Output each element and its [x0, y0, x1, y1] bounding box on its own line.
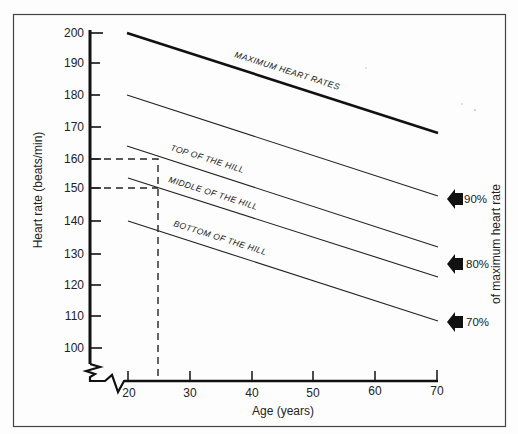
arrow-90: 90%	[447, 189, 487, 209]
arrow-70: 70%	[447, 312, 489, 332]
y-tick-140: 140	[64, 214, 84, 228]
y-axis: 200 190 180 170 160 150 140 130 120 110 …	[31, 26, 103, 364]
y-tick-110: 110	[65, 309, 84, 323]
y-tick-170: 170	[64, 120, 84, 134]
x-tick-30: 30	[183, 386, 197, 400]
x-axis: 20 30 40 50 60 70 Age (years)	[122, 370, 444, 418]
y-tick-200: 200	[64, 26, 84, 40]
y-tick-120: 120	[64, 278, 84, 292]
x-axis-title: Age (years)	[252, 404, 314, 418]
scan-specks	[365, 67, 476, 111]
left-arrow-icon	[447, 312, 463, 332]
pct-70-label: 70%	[466, 316, 489, 328]
arrow-80: 80%	[447, 254, 489, 274]
y-tick-190: 190	[64, 56, 84, 70]
x-tick-50: 50	[306, 386, 320, 400]
left-arrow-icon	[447, 189, 463, 209]
x-tick-40: 40	[245, 386, 259, 400]
pct-90-label: 90%	[464, 193, 487, 205]
series-line-top	[127, 146, 438, 247]
x-tick-60: 60	[368, 384, 382, 398]
label-top: TOP OF THE HILL	[169, 142, 245, 175]
pct-80-label: 80%	[466, 258, 489, 270]
y-axis-title: Heart rate (beats/min)	[31, 132, 45, 249]
y-tick-180: 180	[64, 88, 84, 102]
y-tick-130: 130	[64, 247, 84, 261]
label-middle: MIDDLE OF THE HILL	[167, 174, 259, 212]
series-line-max	[127, 33, 438, 133]
y-tick-100: 100	[64, 341, 84, 355]
y-tick-160: 160	[64, 152, 84, 166]
right-axis-title: of maximum heart rate	[489, 184, 503, 304]
series-line-bottom	[128, 221, 438, 321]
x-tick-20: 20	[122, 386, 136, 400]
x-tick-70: 70	[430, 384, 444, 398]
left-arrow-icon	[447, 254, 463, 274]
heart-rate-chart: 200 190 180 170 160 150 140 130 120 110 …	[0, 0, 518, 434]
y-tick-150: 150	[64, 181, 84, 195]
